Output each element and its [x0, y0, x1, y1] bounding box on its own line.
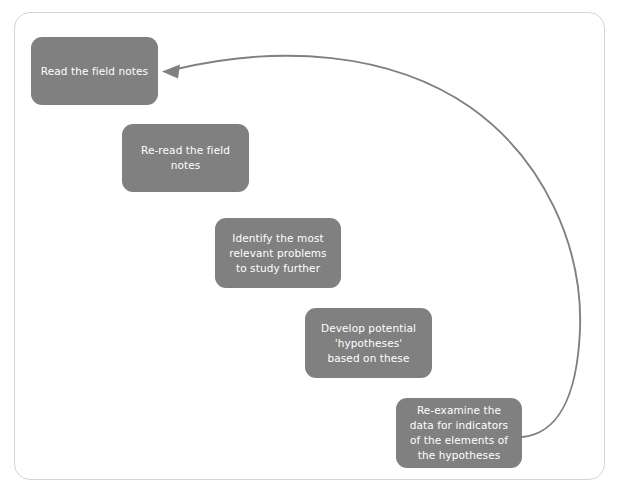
- node-label: Re-read the field notes: [141, 143, 230, 173]
- node-re-examine-the-data[interactable]: Re-examine the data for indicators of th…: [396, 398, 522, 468]
- node-label: Develop potential 'hypotheses' based on …: [321, 321, 416, 366]
- node-label: Read the field notes: [41, 64, 148, 79]
- diagram-canvas: Read the field notes Re-read the field n…: [0, 0, 623, 495]
- node-identify-the-most-relevant-problems[interactable]: Identify the most relevant problems to s…: [215, 218, 341, 288]
- node-re-read-the-field-notes[interactable]: Re-read the field notes: [122, 124, 249, 192]
- node-develop-potential-hypotheses[interactable]: Develop potential 'hypotheses' based on …: [305, 308, 432, 378]
- node-label: Re-examine the data for indicators of th…: [410, 403, 508, 463]
- node-label: Identify the most relevant problems to s…: [229, 231, 326, 276]
- node-read-the-field-notes[interactable]: Read the field notes: [31, 37, 158, 105]
